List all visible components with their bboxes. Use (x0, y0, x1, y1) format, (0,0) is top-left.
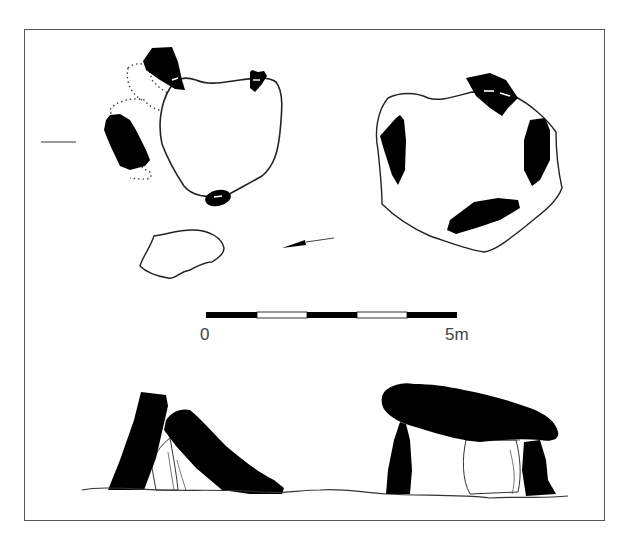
stone-texture (177, 460, 186, 490)
left-plan (104, 47, 282, 278)
backstone (463, 440, 520, 494)
scale-segment (357, 312, 407, 318)
dolmen-drawing (0, 0, 639, 542)
arrow-shaft (306, 238, 334, 242)
scale-start-label: 0 (200, 326, 209, 343)
stone (104, 114, 150, 170)
arrow-head-icon (282, 240, 306, 248)
fallen-capstone (164, 409, 284, 494)
displaced-stone-outline-2 (127, 68, 142, 100)
north-arrow (282, 238, 334, 248)
scale-segment (307, 312, 357, 318)
scale-segment (206, 312, 257, 318)
scale-bar (206, 312, 457, 318)
upright-stone (522, 440, 556, 496)
scale-segment (257, 312, 307, 318)
scale-end-label: 5m (445, 326, 469, 343)
right-plan (376, 73, 562, 252)
chamber-outline (160, 78, 282, 197)
stone (143, 47, 185, 90)
right-elevation (382, 383, 559, 496)
slab-outline (140, 230, 224, 278)
left-elevation (108, 392, 284, 494)
capstone-marker (214, 196, 222, 197)
scale-segment (407, 312, 457, 318)
upright-stone (386, 422, 412, 494)
